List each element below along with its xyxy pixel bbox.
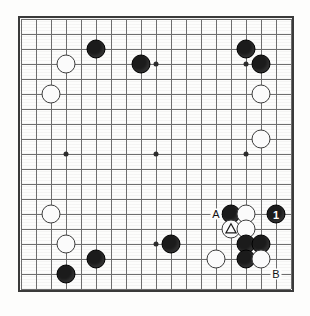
star-point [244,62,249,67]
grid-line-horizontal [21,199,291,200]
board-border-top [18,16,294,18]
grid-line-horizontal [21,289,291,290]
stone-black[interactable]: 1 [267,205,286,224]
stone-white[interactable] [252,85,271,104]
star-point [154,62,159,67]
grid-line-vertical [186,19,187,289]
point-label-a: A [212,209,219,220]
go-board[interactable]: 1AB [18,16,294,292]
grid-line-vertical [216,19,217,289]
go-diagram-container: 1AB [0,0,310,316]
stone-white[interactable] [252,250,271,269]
star-point [244,152,249,157]
board-border-left [18,16,20,292]
stone-black[interactable] [252,55,271,74]
grid-line-vertical [276,19,277,289]
stone-black[interactable] [237,40,256,59]
board-border-right [292,16,294,292]
stone-black[interactable] [162,235,181,254]
star-point [64,152,69,157]
grid-line-vertical [291,19,292,289]
stone-move-number: 1 [268,206,285,223]
grid-line-vertical [231,19,232,289]
stone-white[interactable] [207,250,226,269]
grid-line-vertical [201,19,202,289]
stone-black[interactable] [132,55,151,74]
stone-black[interactable] [87,40,106,59]
board-border-bottom [18,290,294,292]
stone-white[interactable] [42,205,61,224]
grid-line-horizontal [21,169,291,170]
stone-white[interactable] [42,85,61,104]
stone-white[interactable] [57,55,76,74]
stone-black[interactable] [57,265,76,284]
stone-white[interactable] [252,130,271,149]
star-point [154,152,159,157]
stone-white[interactable] [57,235,76,254]
stone-black[interactable] [87,250,106,269]
star-point [154,242,159,247]
grid-line-horizontal [21,184,291,185]
point-label-b: B [272,269,279,280]
